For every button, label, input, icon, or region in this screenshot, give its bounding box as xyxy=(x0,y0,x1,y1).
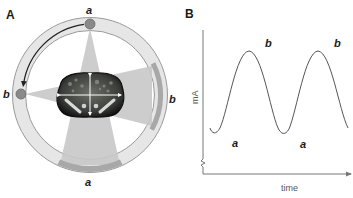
label-position-a-top: a xyxy=(86,4,92,16)
panel-b-letter: B xyxy=(185,7,194,21)
ma-modulation-curve xyxy=(210,51,348,133)
panel-a-letter: A xyxy=(6,8,15,22)
xray-source-left xyxy=(16,89,26,99)
y-axis xyxy=(201,30,205,174)
label-trough-a-1: a xyxy=(232,137,238,149)
y-axis-label: mA xyxy=(190,91,200,105)
label-position-a-bottom: a xyxy=(85,176,91,188)
patient-cross-section xyxy=(57,73,123,117)
panel-a: A xyxy=(3,4,176,188)
label-position-b-right: b xyxy=(169,93,176,105)
label-peak-b-1: b xyxy=(265,37,272,49)
panel-b: B b b a a mA time xyxy=(185,7,351,193)
figure: A xyxy=(0,0,353,198)
x-axis-label: time xyxy=(281,183,298,193)
xray-source-top xyxy=(85,19,95,29)
label-peak-b-2: b xyxy=(334,37,341,49)
label-trough-a-2: a xyxy=(300,138,306,150)
label-position-b-left: b xyxy=(3,88,10,100)
